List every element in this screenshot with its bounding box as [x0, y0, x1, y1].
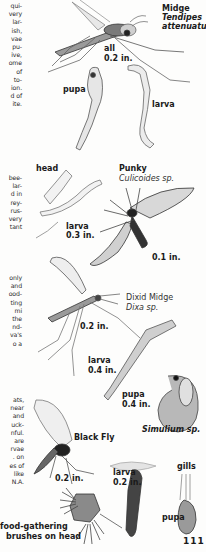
text-line: ite.	[0, 100, 22, 108]
text-line: vae	[0, 35, 22, 43]
punky-head-label: head	[36, 164, 58, 173]
text-line: ish,	[0, 27, 22, 35]
text-line: N.A.	[0, 478, 24, 486]
dixid-text-column: only and ood- ting mi the nd- va's o a	[0, 274, 22, 348]
text-line: d of	[0, 92, 22, 100]
text-line: d in	[0, 190, 22, 198]
punky-adult-size: 0.1 in.	[152, 253, 180, 262]
punky-scientific-name: Culicoides sp.	[119, 174, 174, 183]
text-line: mi	[0, 307, 22, 315]
punky-text-column: bee- lar- d in rey- rus- very tant	[0, 174, 22, 231]
text-line: the	[0, 315, 22, 323]
midge-larva-illustration	[128, 65, 154, 148]
blackfly-larva-size: 0.2 in.	[113, 478, 141, 487]
blackfly-scientific-name: Simulium sp.	[142, 425, 200, 434]
text-line: rey-	[0, 199, 22, 207]
midge-common-name: Midge	[162, 4, 190, 13]
text-line: ion.	[0, 84, 22, 92]
text-line: . on	[0, 453, 24, 461]
text-line: only	[0, 274, 22, 282]
punky-common-name: Punky	[119, 164, 147, 173]
text-line: rvae	[0, 445, 24, 453]
page-number: 111	[183, 536, 205, 546]
midge-text-column: qui- very lar- ish, vae pu- ive, ome of …	[0, 2, 22, 109]
dixid-larva-label: larva	[88, 356, 111, 365]
text-line: very	[0, 215, 22, 223]
dixid-adult-size: 0.2 in.	[80, 322, 108, 331]
midge-scientific-name-2: attenuatus	[162, 22, 206, 31]
blackfly-common-name: Black Fly	[74, 433, 115, 442]
text-line: lar-	[0, 182, 22, 190]
blackfly-gills-label: gills	[177, 462, 196, 471]
text-line: rus-	[0, 207, 22, 215]
blackfly-adult-size: 0.2 in.	[55, 474, 83, 483]
text-line: bee-	[0, 174, 22, 182]
text-line: tant	[0, 223, 22, 231]
text-line: o a	[0, 340, 22, 348]
midge-size-label: all	[104, 44, 115, 53]
text-line: to-	[0, 76, 22, 84]
text-line: of	[0, 68, 22, 76]
midge-pupa-label: pupa	[63, 85, 86, 94]
text-line: es of	[0, 462, 24, 470]
blackfly-brushes-label-1: food-gathering	[0, 522, 68, 531]
punky-larva-label: larva	[66, 222, 89, 231]
midge-larva-label: larva	[152, 100, 175, 109]
illustrations	[0, 0, 206, 552]
dixid-pupa-illustration	[158, 376, 198, 433]
midge-scientific-name: Tendipes	[162, 13, 202, 22]
text-line: qui-	[0, 2, 22, 10]
dixid-common-name: Dixid Midge	[126, 293, 173, 302]
blackfly-larva-label: larva	[113, 468, 136, 477]
text-line: ood-	[0, 290, 22, 298]
punky-larva-size: 0.3 in.	[66, 231, 94, 240]
midge-pupa-illustration	[76, 67, 103, 150]
text-line: pu-	[0, 43, 22, 51]
text-line: like	[0, 470, 24, 478]
text-line: uck-	[0, 421, 24, 429]
text-line: ive,	[0, 51, 22, 59]
text-line: near	[0, 404, 24, 412]
blackfly-pupa-label: pupa	[162, 513, 185, 522]
blackfly-brushes-label-2: brushes on head	[6, 532, 81, 541]
text-line: ats,	[0, 396, 24, 404]
dixid-scientific-name: Dixa sp.	[126, 303, 158, 312]
text-line: are	[0, 437, 24, 445]
book-page: qui- very lar- ish, vae pu- ive, ome of …	[0, 0, 206, 552]
text-line: nd-	[0, 323, 22, 331]
dixid-pupa-size: 0.4 in.	[122, 400, 150, 409]
text-line: very	[0, 10, 22, 18]
text-line: ome	[0, 59, 22, 67]
text-line: and	[0, 282, 22, 290]
dixid-larva-size: 0.4 in.	[88, 366, 116, 375]
text-line: ting	[0, 299, 22, 307]
text-line: and	[0, 412, 24, 420]
midge-size: 0.2 in.	[104, 54, 132, 63]
dixid-larva-illustration	[104, 320, 176, 400]
blackfly-text-column: ats, near and uck- nful. are rvae . on e…	[0, 396, 24, 486]
text-line: lar-	[0, 18, 22, 26]
blackfly-pupa-illustration	[178, 474, 196, 534]
text-line: va's	[0, 331, 22, 339]
text-line: nful.	[0, 429, 24, 437]
dixid-pupa-label: pupa	[122, 390, 145, 399]
